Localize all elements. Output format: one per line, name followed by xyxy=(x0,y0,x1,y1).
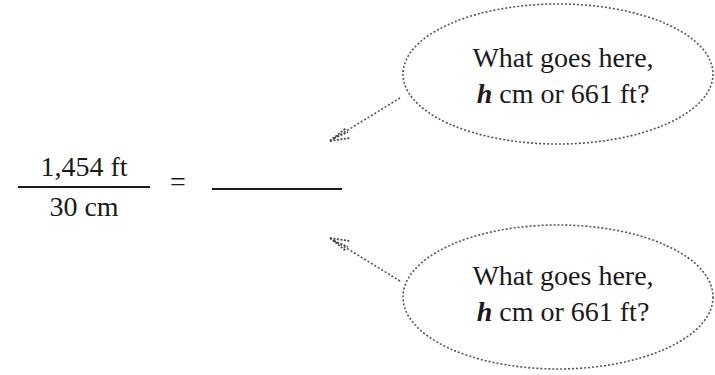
variable-h: h xyxy=(477,78,493,109)
callout-top-line2: h cm or 661 ft? xyxy=(418,76,708,112)
callout-top-line2-rest: cm or 661 ft? xyxy=(492,78,649,109)
variable-h: h xyxy=(477,296,493,327)
callout-bottom-line2: h cm or 661 ft? xyxy=(418,294,708,330)
callout-bottom-line1: What goes here, xyxy=(418,258,708,294)
callout-top-line1: What goes here, xyxy=(418,40,708,76)
callout-bottom-text: What goes here, h cm or 661 ft? xyxy=(418,258,708,330)
callout-top-text: What goes here, h cm or 661 ft? xyxy=(418,40,708,112)
callout-bottom-line2-rest: cm or 661 ft? xyxy=(492,296,649,327)
